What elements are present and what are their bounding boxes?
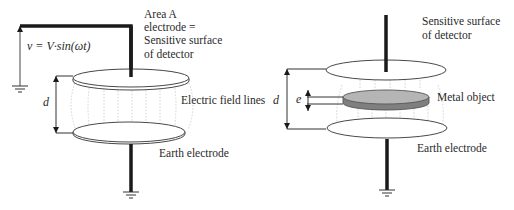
distance-label: d [43,95,50,109]
svg-text:of detector: of detector [422,29,472,41]
voltage-formula: v = V·sin(ωt) [27,39,91,53]
ground-icon [379,190,395,196]
earth-electrode-label: Earth electrode [417,142,487,154]
ground-icon [12,86,28,92]
thickness-label: e [296,92,302,106]
metal-object [343,90,429,110]
distance-label: d [273,93,280,107]
svg-text:Sensitive surface: Sensitive surface [422,15,500,27]
left-diagram: v = V·sin(ωt) [12,8,266,198]
arrow-up-icon [305,90,311,96]
svg-text:electrode =: electrode = [144,21,196,33]
distance-d-dimension [284,69,326,129]
metal-object-label: Metal object [437,91,496,104]
field-lines-label: Electric field lines [181,94,266,106]
sensitive-surface-label: Sensitive surface of detector [422,15,500,41]
capacitive-detector-diagram: v = V·sin(ωt) [0,0,514,210]
arrow-up-icon [284,69,290,75]
ground-icon [123,192,139,198]
arrow-up-icon [53,76,59,82]
distance-d-dimension [53,76,73,133]
top-electrode-label: Area A electrode = Sensitive surface of … [144,8,222,60]
right-diagram: d e Sensitive surface of detector Metal … [273,15,500,196]
svg-text:Sensitive surface: Sensitive surface [144,34,222,46]
arrow-down-icon [305,105,311,111]
bottom-electrode [327,118,447,196]
arrow-down-icon [53,127,59,133]
arrow-down-icon [284,123,290,129]
svg-text:of detector: of detector [144,48,194,60]
svg-text:Area A: Area A [144,8,178,20]
bottom-electrode [73,122,185,198]
earth-electrode-label: Earth electrode [159,147,229,159]
